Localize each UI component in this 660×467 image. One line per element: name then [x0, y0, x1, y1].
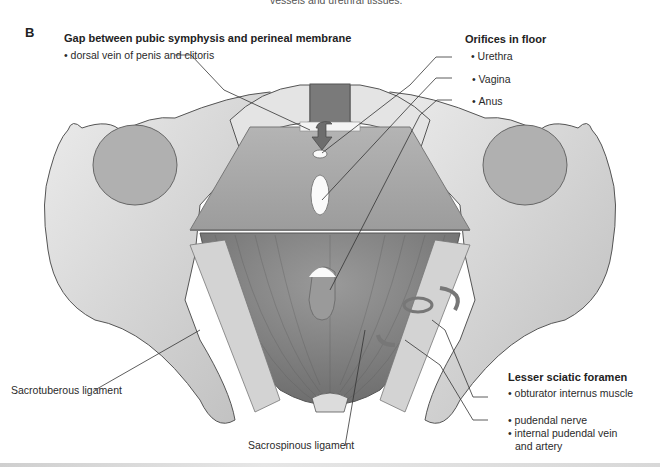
bottom-edge-bar — [0, 463, 660, 467]
lesser-sciatic-group-title: Lesser sciatic foramen — [508, 371, 627, 383]
gap-group-title: Gap between pubic symphysis and perineal… — [64, 32, 351, 44]
label-internal-pudendal-vessels-cont: and artery — [515, 440, 562, 453]
label-anus: Anus — [472, 95, 503, 108]
label-vagina: Vagina — [472, 73, 511, 86]
orifices-group-title: Orifices in floor — [465, 33, 546, 45]
pubic-symphysis — [310, 84, 350, 124]
label-dorsal-vein: dorsal vein of penis and clitoris — [64, 49, 214, 62]
coccyx — [312, 393, 348, 412]
label-sacrospinous-ligament: Sacrospinous ligament — [248, 439, 354, 452]
cutoff-caption-text: vessels and urethral tissues. — [270, 0, 402, 6]
label-sacrotuberous-ligament: Sacrotuberous ligament — [11, 384, 122, 397]
panel-label: B — [25, 25, 34, 40]
label-obturator-internus: obturator internus muscle — [508, 387, 633, 400]
label-internal-pudendal-vessels: internal pudendal vein — [508, 427, 617, 440]
label-urethra: Urethra — [471, 50, 513, 63]
label-pudendal-nerve: pudendal nerve — [508, 414, 587, 427]
